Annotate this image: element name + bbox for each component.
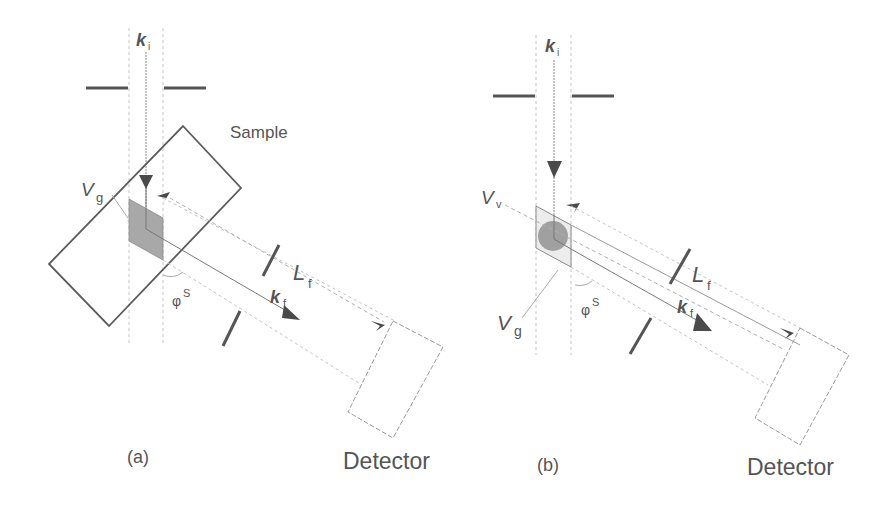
incident-vector-sub: i <box>148 41 150 52</box>
scattered-vector-label: k <box>677 297 688 317</box>
scattering-angle-sup: S <box>592 296 599 308</box>
detector-arrowhead <box>371 321 385 331</box>
detector-label-b: Detector <box>747 454 834 480</box>
scattering-angle-sup: S <box>183 287 190 299</box>
exit-slit-top <box>670 249 690 284</box>
void-volume-label: V <box>481 187 496 208</box>
scattered-vector-sub: f <box>690 307 694 319</box>
scattering-angle-label: φ <box>581 302 590 318</box>
scattered-vector-label: k <box>270 287 281 307</box>
panel-a-caption: (a) <box>127 447 149 467</box>
gauge-volume-sub: g <box>514 323 522 339</box>
detector-box <box>755 328 849 445</box>
incident-arrowhead <box>139 175 153 189</box>
scattered-vector-sub: f <box>283 297 287 309</box>
scattering-angle-arc <box>163 272 183 276</box>
scattering-geometry-figure: k i Sample V g L f k f φ S (a) Detector <box>0 0 896 508</box>
gauge-volume-sub: g <box>96 190 103 205</box>
incident-vector-sub: i <box>557 47 559 58</box>
void-volume-sub: v <box>496 198 502 210</box>
scattering-angle-arc <box>575 281 592 285</box>
incident-arrowhead <box>547 161 562 178</box>
panel-a: k i Sample V g L f k f φ S (a) Detector <box>49 28 443 474</box>
gauge-volume-pointer <box>522 270 558 318</box>
path-length-sub: f <box>707 278 711 293</box>
exit-slit-bottom <box>630 318 651 354</box>
scattered-arrowhead <box>693 313 712 331</box>
path-length-sub: f <box>308 276 312 291</box>
gauge-volume-label: V <box>497 311 513 334</box>
exit-slit-bottom <box>223 311 240 346</box>
path-arrowhead <box>157 192 170 202</box>
sample-label: Sample <box>230 123 288 142</box>
gauge-volume-pointer <box>112 195 128 218</box>
scattered-beam-edge-mid <box>571 225 800 345</box>
detector-box <box>348 321 443 438</box>
gauge-volume-label: V <box>81 179 96 200</box>
void-volume <box>538 221 568 251</box>
detector-label-a: Detector <box>343 448 430 474</box>
scattered-beam-edge-bottom <box>163 260 362 385</box>
panel-b-caption: (b) <box>537 455 559 475</box>
panel-b: k i V v V g L f k f φ S (b) Detector <box>481 35 849 480</box>
incident-vector-label: k <box>136 30 147 50</box>
detector-arrowhead <box>780 328 794 339</box>
path-length-label: L <box>692 262 704 287</box>
exit-slit-top <box>263 245 279 276</box>
scattering-angle-label: φ <box>172 293 181 309</box>
path-arrowhead <box>566 203 580 213</box>
path-length-label: L <box>293 260 305 285</box>
incident-vector-label: k <box>545 36 556 56</box>
